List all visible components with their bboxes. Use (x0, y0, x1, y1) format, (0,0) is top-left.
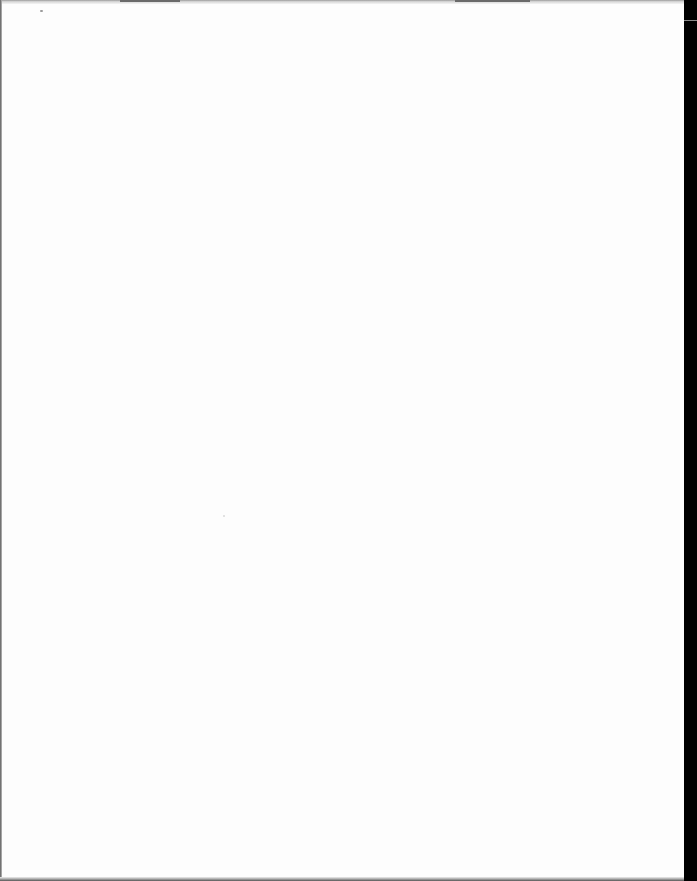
page-bottom-edge-shadow (0, 877, 684, 881)
page-top-edge-shadow (0, 0, 684, 4)
page-top-edge-artifact (120, 0, 180, 2)
scanner-border-notch (684, 20, 697, 21)
blank-page (0, 0, 684, 881)
scan-speck (223, 515, 225, 517)
scan-speck (40, 10, 43, 12)
scanner-black-border (684, 0, 697, 881)
page-left-edge-shadow (0, 0, 2, 881)
page-top-edge-artifact (455, 0, 530, 2)
scanned-document-viewport (0, 0, 697, 881)
